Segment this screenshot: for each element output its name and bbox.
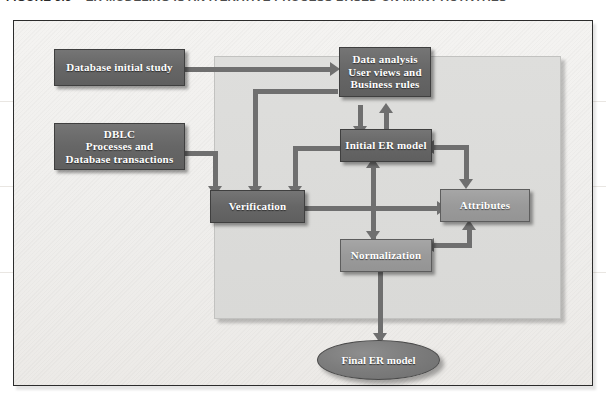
node-label-line: User views and [348,66,422,79]
node-final-er-model[interactable]: Final ER model [317,340,440,380]
arrowhead-into-attributes-top [459,179,473,189]
node-label-line: Normalization [351,249,421,262]
node-label-line: DBLC [66,128,174,141]
edge-normalization-to-finaler [378,265,383,340]
edge-dataanalysis-to-verification-h [253,89,338,94]
arrowhead-initialer-to-dataanalysis [379,103,393,113]
figure-number: FIGURE 3.3 [6,0,72,3]
edge-dbstudy-to-dataanalysis [184,67,332,72]
edge-dblc-to-verification-v [213,151,218,189]
edge-dataanalysis-to-verification-v [253,89,258,189]
node-initial-er-model[interactable]: Initial ER model [340,129,432,162]
node-label-line: Processes and [66,140,174,153]
node-label-line: Data analysis [348,53,422,66]
edge-initialer-to-verification-v [293,146,298,189]
edge-attributes-to-initialer-h [432,145,469,150]
figure-title: ER MODELING IS AN ITERATIVE PROCESS BASE… [86,0,507,3]
node-database-initial-study[interactable]: Database initial study [54,49,185,86]
node-label-line: Database initial study [66,61,172,74]
node-normalization[interactable]: Normalization [340,239,432,272]
node-label-line: Final ER model [342,354,416,366]
figure-page: FIGURE 3.3 ER MODELING IS AN ITERATIVE P… [0,0,606,404]
figure-caption: FIGURE 3.3 ER MODELING IS AN ITERATIVE P… [6,0,600,7]
edge-initialer-normalization [371,161,376,239]
edge-normalization-attributes-h [432,243,472,248]
node-label-line: Verification [229,200,287,213]
node-label-line: Business rules [348,78,422,91]
node-label-line: Attributes [460,199,510,212]
node-label-line: Initial ER model [345,139,426,152]
figure-frame: Database initial study DBLC Processes an… [13,20,593,386]
node-data-analysis[interactable]: Data analysis User views and Business ru… [339,47,431,97]
node-label-line: Database transactions [66,153,174,166]
node-attributes[interactable]: Attributes [440,189,530,222]
node-dblc[interactable]: DBLC Processes and Database transactions [54,123,185,170]
node-verification[interactable]: Verification [210,190,305,223]
edge-initialer-to-verification-h [293,146,343,151]
